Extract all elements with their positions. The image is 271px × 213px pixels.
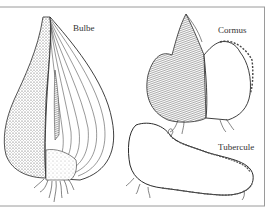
botanical-illustration: Bulbe Cormus [0, 0, 271, 213]
label-corm: Cormus [218, 25, 247, 35]
bulb-drawing [4, 17, 113, 202]
label-tuber: Tubercule [218, 142, 254, 152]
label-bulb: Bulbe [73, 23, 95, 33]
tuber-drawing [126, 123, 253, 200]
